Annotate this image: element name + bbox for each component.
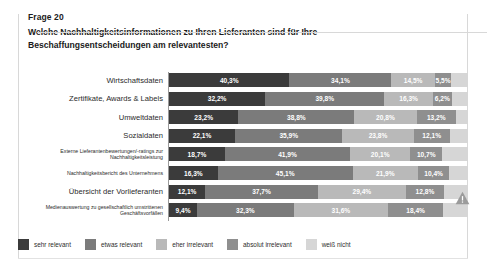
bar-segment-3: 5,5%	[435, 73, 451, 87]
row-bar-track: 23,2%38,8%20,8%13,2%	[169, 110, 468, 124]
chart-row: Medienauswertung zu gesellschaftlich ums…	[18, 203, 468, 217]
row-bar-track: 9,4%32,3%31,6%18,4%	[169, 203, 468, 217]
legend-swatch	[306, 239, 317, 250]
bar-segment-1: 32,3%	[197, 203, 294, 217]
chart-row: Sozialdaten22,1%35,9%23,8%12,1%	[18, 129, 468, 143]
legend-item: weiß nicht	[306, 239, 351, 250]
bar-segment-3: 10,4%	[418, 166, 449, 180]
bar-segment-3: 18,4%	[388, 203, 443, 217]
bar-segment-2: 21,9%	[353, 166, 418, 180]
bar-segment-3: 6,2%	[433, 92, 452, 106]
bar-segment-0: 32,2%	[169, 92, 265, 106]
bar-segment-4	[452, 92, 468, 106]
bar-segment-1: 35,9%	[235, 129, 342, 143]
chart-row: Nachhaltigkeitsbericht des Unternehmens1…	[18, 166, 468, 180]
question-number: Frage 20	[28, 12, 69, 22]
legend-label: etwas relevant	[101, 241, 142, 248]
legend-swatch	[156, 239, 167, 250]
row-bar-track: 18,7%41,9%20,1%10,7%	[169, 147, 468, 161]
bar-segment-2: 14,5%	[391, 73, 434, 87]
row-category-label: Zertifikate, Awards & Labels	[18, 92, 168, 106]
bar-segment-4	[456, 110, 468, 124]
legend-label: weiß nicht	[322, 241, 351, 248]
row-category-label: Umweltdaten	[18, 110, 168, 124]
legend-item: sehr relevant	[18, 239, 71, 250]
row-bar-track: 22,1%35,9%23,8%12,1%	[169, 129, 468, 143]
bar-segment-1: 45,1%	[218, 166, 353, 180]
chart-legend: sehr relevantetwas relevanteher irreleva…	[18, 236, 468, 252]
bar-segment-1: 34,1%	[289, 73, 391, 87]
bar-segment-0: 12,1%	[169, 185, 205, 199]
bar-segment-4	[443, 203, 468, 217]
legend-label: sehr relevant	[34, 241, 71, 248]
row-category-label: Medienauswertung zu gesellschaftlich ums…	[18, 203, 168, 217]
row-bar-track: 32,2%39,8%16,3%6,2%	[169, 92, 468, 106]
bar-segment-2: 29,4%	[318, 185, 406, 199]
row-category-label: Nachhaltigkeitsbericht des Unternehmens	[18, 166, 168, 180]
row-category-label: Sozialdaten	[18, 129, 168, 143]
chart-row: Wirtschaftsdaten40,3%34,1%14,5%5,5%	[18, 73, 468, 87]
row-category-label: Externe Lieferantenbewertungen/-ratings …	[18, 147, 168, 161]
legend-swatch	[227, 239, 238, 250]
bar-segment-0: 18,7%	[169, 147, 225, 161]
row-category-label: Wirtschaftsdaten	[18, 73, 168, 87]
bar-segment-0: 9,4%	[169, 203, 197, 217]
bar-segment-1: 37,7%	[205, 185, 318, 199]
bar-segment-2: 20,1%	[350, 147, 410, 161]
chart-row: Zertifikate, Awards & Labels32,2%39,8%16…	[18, 92, 468, 106]
bar-segment-4	[442, 147, 468, 161]
chart-row: Übersicht der Vorlieferanten12,1%37,7%29…	[18, 185, 468, 199]
bar-segment-1: 41,9%	[225, 147, 350, 161]
legend-item: etwas relevant	[85, 239, 142, 250]
bar-segment-1: 38,8%	[238, 110, 354, 124]
chart-row: Externe Lieferantenbewertungen/-ratings …	[18, 147, 468, 161]
bar-segment-2: 23,8%	[342, 129, 413, 143]
legend-item: absolut irrelevant	[227, 239, 292, 250]
stacked-bar-chart: Wirtschaftsdaten40,3%34,1%14,5%5,5%Zerti…	[18, 72, 468, 224]
bar-segment-0: 16,3%	[169, 166, 218, 180]
bar-segment-4	[450, 129, 468, 143]
footer-divider	[18, 258, 468, 259]
chart-row: Umweltdaten23,2%38,8%20,8%13,2%	[18, 110, 468, 124]
legend-swatch	[85, 239, 96, 250]
bar-segment-2: 20,8%	[354, 110, 416, 124]
bar-segment-3: 13,2%	[417, 110, 456, 124]
row-category-label: Übersicht der Vorlieferanten	[18, 185, 168, 199]
bar-segment-4	[451, 73, 468, 87]
legend-swatch	[18, 239, 29, 250]
bar-segment-3: 10,7%	[410, 147, 442, 161]
bar-segment-4	[449, 166, 468, 180]
row-bar-track: 40,3%34,1%14,5%5,5%	[169, 73, 468, 87]
bar-segment-3: 12,1%	[414, 129, 450, 143]
legend-item: eher irrelevant	[156, 239, 213, 250]
header-divider	[37, 32, 487, 33]
row-bar-track: 16,3%45,1%21,9%10,4%	[169, 166, 468, 180]
bar-segment-2: 31,6%	[294, 203, 388, 217]
bar-segment-1: 39,8%	[265, 92, 384, 106]
bar-segment-2: 16,3%	[384, 92, 433, 106]
warning-triangle-icon	[455, 191, 470, 205]
bar-segment-0: 23,2%	[169, 110, 238, 124]
bar-segment-0: 22,1%	[169, 129, 235, 143]
row-bar-track: 12,1%37,7%29,4%12,8%	[169, 185, 468, 199]
bar-segment-3: 12,8%	[406, 185, 444, 199]
question-title: Welche Nachhaltigkeitsinformationen zu I…	[28, 26, 358, 51]
legend-label: absolut irrelevant	[243, 241, 292, 248]
legend-label: eher irrelevant	[172, 241, 213, 248]
bar-segment-0: 40,3%	[169, 73, 289, 87]
